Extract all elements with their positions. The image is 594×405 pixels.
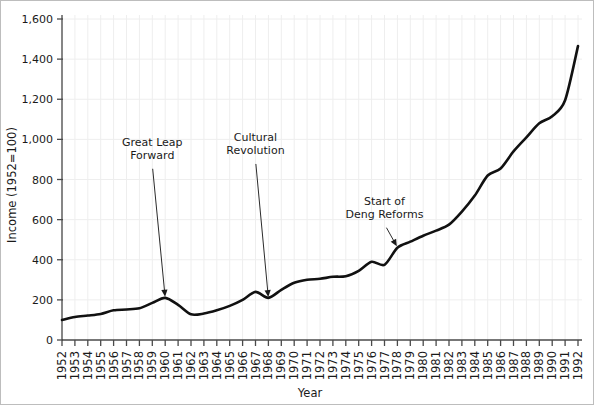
x-axis-tick-label: 1981 — [429, 351, 443, 380]
y-axis-tick-label: 1,200 — [22, 93, 54, 106]
x-axis-tick-label: 1960 — [158, 351, 172, 380]
x-axis-tick-label: 1974 — [339, 351, 353, 380]
x-axis-tick-label: 1957 — [120, 351, 134, 380]
x-axis-tick-label: 1952 — [55, 351, 69, 380]
x-axis-tick-label: 1955 — [94, 351, 108, 380]
y-axis-tick-label: 600 — [32, 214, 53, 227]
y-axis-tick-label: 400 — [32, 254, 53, 267]
x-axis-tick-label: 1967 — [249, 351, 263, 380]
x-axis-tick-label: 1985 — [481, 351, 495, 380]
x-axis-tick-label: 1961 — [171, 351, 185, 380]
x-axis-tick-label: 1962 — [184, 351, 198, 380]
x-axis-tick-label: 1982 — [442, 351, 456, 380]
x-axis-tick-label: 1956 — [107, 351, 121, 380]
annotation-label-cultural-revolution: CulturalRevolution — [226, 131, 284, 157]
income-index-line-chart: 02004006008001,0001,2001,4001,600 195219… — [0, 0, 594, 405]
y-axis-tick-label: 1,400 — [22, 53, 54, 66]
x-axis-tick-label: 1973 — [326, 351, 340, 380]
y-axis-tick-label: 0 — [46, 334, 53, 347]
x-axis-tick-label: 1965 — [223, 351, 237, 380]
x-axis-title: Year — [297, 386, 323, 400]
x-axis-tick-label: 1968 — [261, 351, 275, 380]
x-axis-tick-label: 1977 — [378, 351, 392, 380]
x-axis-tick-label: 1969 — [274, 351, 288, 380]
x-axis-tick-label: 1990 — [545, 351, 559, 380]
x-axis-tick-label: 1980 — [416, 351, 430, 380]
x-axis-tick-label: 1976 — [365, 351, 379, 380]
x-axis-tick-label: 1971 — [300, 351, 314, 380]
x-axis-tick-label: 1987 — [507, 351, 521, 380]
x-axis-tick-label: 1958 — [132, 351, 146, 380]
x-axis-tick-label: 1964 — [210, 351, 224, 380]
x-axis-tick-label: 1970 — [287, 351, 301, 380]
x-axis-tick-label: 1959 — [145, 351, 159, 380]
x-axis-tick-label: 1972 — [313, 351, 327, 380]
x-axis-tick-label: 1991 — [558, 351, 572, 380]
annotation-label-great-leap-forward: Great LeapForward — [122, 136, 183, 162]
x-axis-tick-label: 1986 — [494, 351, 508, 380]
chart-figure: 02004006008001,0001,2001,4001,600 195219… — [0, 0, 594, 405]
chart-background — [0, 0, 594, 405]
x-axis-tick-label: 1984 — [468, 351, 482, 380]
y-axis-tick-label: 200 — [32, 294, 53, 307]
x-axis-tick-label: 1979 — [403, 351, 417, 380]
x-axis-tick-label: 1983 — [455, 351, 469, 380]
y-axis-tick-label: 800 — [32, 174, 53, 187]
y-axis-tick-label: 1,600 — [22, 13, 54, 26]
x-axis-tick-label: 1992 — [571, 351, 585, 380]
x-axis-tick-label: 1953 — [68, 351, 82, 380]
x-axis-tick-label: 1963 — [197, 351, 211, 380]
x-axis-tick-label: 1966 — [236, 351, 250, 380]
x-axis-tick-label: 1975 — [352, 351, 366, 380]
y-axis-title: Income (1952=100) — [5, 127, 19, 243]
x-axis-tick-label: 1954 — [81, 351, 95, 380]
y-axis-tick-label: 1,000 — [22, 133, 54, 146]
x-axis-tick-label: 1989 — [532, 351, 546, 380]
x-axis-tick-label: 1988 — [519, 351, 533, 380]
x-axis-tick-label: 1978 — [390, 351, 404, 380]
